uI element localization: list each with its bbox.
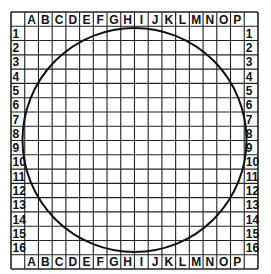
column-label-top: M: [191, 13, 201, 27]
column-label-top: P: [233, 13, 241, 27]
row-label-left: 11: [13, 170, 26, 184]
column-label-bottom: B: [41, 255, 50, 269]
column-label-bottom: D: [68, 255, 77, 269]
row-label-right: 2: [246, 41, 253, 55]
column-label-top: H: [123, 13, 132, 27]
row-label-right: 14: [246, 213, 260, 227]
grid-lines: [11, 12, 258, 269]
column-label-top: J: [152, 13, 159, 27]
row-label-right: 11: [246, 170, 259, 184]
row-label-left: 12: [13, 184, 27, 198]
column-label-bottom: O: [219, 255, 228, 269]
row-label-left: 5: [13, 84, 20, 98]
column-label-bottom: J: [152, 255, 159, 269]
row-label-left: 7: [13, 113, 20, 127]
column-label-top: B: [41, 13, 50, 27]
column-label-top: I: [140, 13, 143, 27]
row-label-right: 5: [246, 84, 253, 98]
column-label-top: D: [68, 13, 77, 27]
row-label-right: 7: [246, 113, 253, 127]
row-label-right: 12: [246, 184, 260, 198]
row-label-right: 13: [246, 198, 260, 212]
row-label-left: 9: [13, 141, 20, 155]
row-label-right: 6: [246, 98, 253, 112]
column-label-bottom: G: [109, 255, 118, 269]
row-label-left: 14: [13, 213, 27, 227]
column-label-bottom: A: [27, 255, 36, 269]
row-label-right: 15: [246, 227, 260, 241]
row-label-left: 1: [13, 27, 20, 41]
column-label-bottom: M: [191, 255, 201, 269]
column-label-bottom: H: [123, 255, 132, 269]
column-label-top: A: [27, 13, 36, 27]
row-label-right: 16: [246, 241, 260, 255]
row-label-right: 3: [246, 55, 253, 69]
column-label-top: N: [206, 13, 215, 27]
row-label-left: 6: [13, 98, 20, 112]
row-label-left: 15: [13, 227, 27, 241]
column-label-top: E: [82, 13, 90, 27]
row-label-left: 4: [13, 70, 20, 84]
column-label-bottom: K: [164, 255, 173, 269]
column-label-top: K: [164, 13, 173, 27]
row-label-left: 16: [13, 241, 27, 255]
grid-svg: AABBCCDDEEFFGGHHIIJJKKLLMMNNOOPP11223344…: [0, 0, 271, 274]
column-label-top: C: [55, 13, 64, 27]
row-label-left: 8: [13, 127, 20, 141]
column-label-top: O: [219, 13, 228, 27]
row-label-left: 3: [13, 55, 20, 69]
row-label-right: 4: [246, 70, 253, 84]
column-label-bottom: C: [55, 255, 64, 269]
grid-diagram: AABBCCDDEEFFGGHHIIJJKKLLMMNNOOPP11223344…: [0, 0, 271, 274]
row-label-left: 2: [13, 41, 20, 55]
column-label-bottom: I: [140, 255, 143, 269]
row-label-left: 13: [13, 198, 27, 212]
column-label-bottom: P: [233, 255, 241, 269]
column-label-bottom: N: [206, 255, 215, 269]
column-label-bottom: E: [82, 255, 90, 269]
row-label-right: 10: [246, 155, 260, 169]
column-label-top: F: [97, 13, 104, 27]
column-label-top: L: [179, 13, 186, 27]
column-label-bottom: F: [97, 255, 104, 269]
row-label-right: 1: [246, 27, 253, 41]
column-label-bottom: L: [179, 255, 186, 269]
column-label-top: G: [109, 13, 118, 27]
